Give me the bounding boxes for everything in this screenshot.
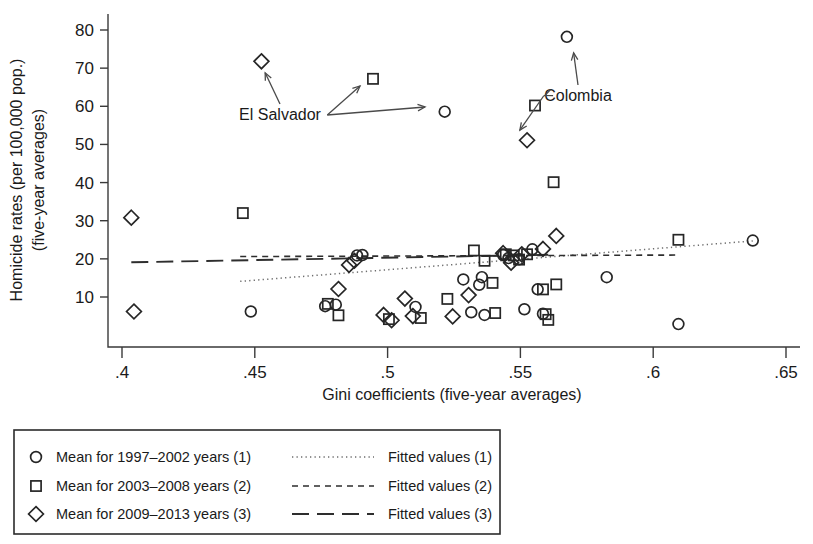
legend-line-label: Fitted values (3) xyxy=(388,506,492,522)
annotation-label: Colombia xyxy=(544,87,612,104)
data-point-circle xyxy=(519,304,530,315)
y-axis-tick-labels: 1020304050607080 xyxy=(75,21,94,307)
data-point-diamond xyxy=(520,133,535,148)
fitted-line xyxy=(240,241,753,281)
legend-line-entry[interactable]: Fitted values (3) xyxy=(292,506,492,522)
data-point-diamond xyxy=(331,282,346,297)
y-axis-ticks xyxy=(100,30,108,297)
y-tick-label: 50 xyxy=(75,135,94,154)
legend-marker-label: Mean for 2009–2013 years (3) xyxy=(56,506,251,522)
y-tick-label: 70 xyxy=(75,59,94,78)
x-tick-label: .4 xyxy=(115,363,129,382)
legend-line-label: Fitted values (1) xyxy=(388,449,492,465)
data-point-square xyxy=(368,74,378,84)
data-point-circle xyxy=(601,272,612,283)
annotation-arrow-line xyxy=(327,86,360,115)
x-tick-label: .5 xyxy=(381,363,395,382)
data-point-square xyxy=(549,177,559,187)
data-point-diamond xyxy=(127,304,142,319)
data-point-diamond xyxy=(549,229,564,244)
data-point-square xyxy=(238,208,248,218)
x-axis-tick-labels: .4.45.5.55.6.65 xyxy=(115,363,798,382)
x-tick-label: .6 xyxy=(646,363,660,382)
series-circle xyxy=(245,31,758,329)
legend-line-entry[interactable]: Fitted values (2) xyxy=(292,478,492,494)
legend-marker-entry[interactable]: Mean for 1997–2002 years (1) xyxy=(31,449,251,465)
y-axis-title-line2: (five-year averages) xyxy=(30,109,47,251)
annotation-arrow-line xyxy=(265,73,280,104)
y-tick-label: 20 xyxy=(75,250,94,269)
annotation-label: El Salvador xyxy=(239,106,321,123)
axis-lines xyxy=(108,14,800,347)
legend-marker-entry[interactable]: Mean for 2009–2013 years (3) xyxy=(29,506,251,522)
annotation-arrow-line xyxy=(327,107,425,115)
data-point-square xyxy=(673,235,683,245)
data-point-square xyxy=(31,481,41,491)
data-point-circle xyxy=(320,301,331,312)
data-point-square xyxy=(469,245,479,255)
legend-marker-entry[interactable]: Mean for 2003–2008 years (2) xyxy=(31,478,251,494)
y-tick-label: 30 xyxy=(75,212,94,231)
y-axis-title-line1: Homicide rates (per 100,000 pop.) xyxy=(8,59,25,302)
annotation-el-salvador: El Salvador xyxy=(239,73,425,123)
data-point-diamond xyxy=(124,210,139,225)
legend-line-label: Fitted values (2) xyxy=(388,478,492,494)
data-point-diamond xyxy=(254,54,269,69)
data-point-square xyxy=(551,279,561,289)
legend-marker-label: Mean for 1997–2002 years (1) xyxy=(56,449,251,465)
chart-legend: Mean for 1997–2002 years (1)Mean for 200… xyxy=(14,430,500,534)
data-point-diamond xyxy=(29,507,44,522)
data-point-circle xyxy=(479,310,490,321)
fitted-value-lines xyxy=(131,241,753,281)
data-point-diamond xyxy=(445,309,460,324)
y-tick-label: 60 xyxy=(75,97,94,116)
data-point-circle xyxy=(466,307,477,318)
annotation-colombia: Colombia xyxy=(520,53,612,130)
x-tick-label: .45 xyxy=(243,363,267,382)
legend-marker-label: Mean for 2003–2008 years (2) xyxy=(56,478,251,494)
data-point-square xyxy=(442,294,452,304)
data-point-diamond xyxy=(461,288,476,303)
data-point-square xyxy=(490,308,500,318)
data-point-square xyxy=(479,256,489,266)
y-tick-label: 40 xyxy=(75,174,94,193)
legend-entries: Mean for 1997–2002 years (1)Mean for 200… xyxy=(29,449,492,522)
data-point-square xyxy=(333,310,343,320)
data-point-circle xyxy=(31,452,42,463)
data-point-circle xyxy=(673,319,684,330)
data-point-circle xyxy=(561,31,572,42)
y-tick-label: 80 xyxy=(75,21,94,40)
data-point-circle xyxy=(747,235,758,246)
plot-frame xyxy=(108,14,800,347)
x-tick-label: .65 xyxy=(774,363,798,382)
x-axis-ticks xyxy=(122,347,786,358)
x-tick-label: .55 xyxy=(509,363,533,382)
chart-annotations: El SalvadorColombia xyxy=(239,53,612,130)
y-tick-label: 10 xyxy=(75,288,94,307)
data-point-square xyxy=(487,278,497,288)
data-point-circle xyxy=(439,106,450,117)
scatter-plot-figure: 1020304050607080 .4.45.5.55.6.65 Gini co… xyxy=(0,0,813,544)
x-axis-title: Gini coefficients (five-year averages) xyxy=(322,386,581,403)
data-point-circle xyxy=(245,306,256,317)
chart-svg: 1020304050607080 .4.45.5.55.6.65 Gini co… xyxy=(0,0,813,544)
data-point-diamond xyxy=(397,291,412,306)
data-point-circle xyxy=(458,274,469,285)
legend-line-entry[interactable]: Fitted values (1) xyxy=(292,449,492,465)
data-point-markers xyxy=(124,31,758,329)
